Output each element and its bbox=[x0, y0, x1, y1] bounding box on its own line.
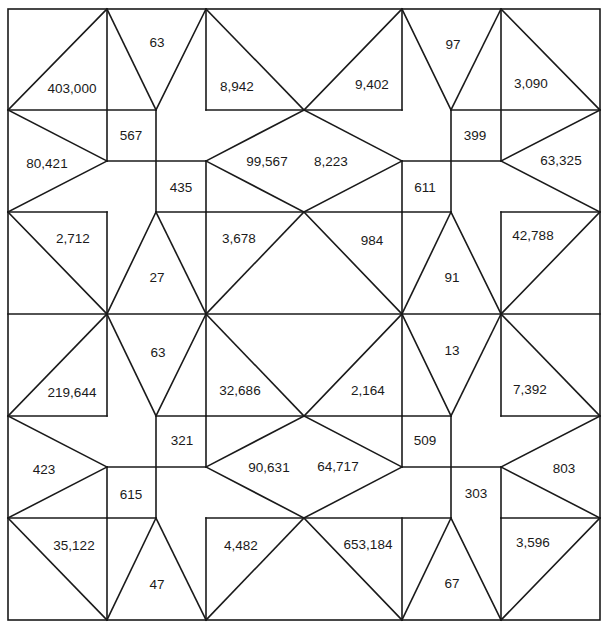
diagram-line bbox=[107, 314, 156, 416]
diagram-line bbox=[206, 467, 304, 518]
region-number-label: 219,644 bbox=[48, 385, 97, 400]
diagram-line bbox=[451, 212, 501, 314]
region-number-label: 509 bbox=[414, 433, 437, 448]
region-number-label: 97 bbox=[445, 37, 460, 52]
diagram-line bbox=[304, 314, 402, 416]
region-number-label: 32,686 bbox=[219, 383, 260, 398]
region-number-label: 3,596 bbox=[516, 535, 550, 550]
diagram-line bbox=[156, 212, 206, 314]
diagram-line bbox=[304, 518, 402, 620]
diagram-line bbox=[156, 518, 206, 620]
region-number-label: 3,678 bbox=[222, 231, 256, 246]
diagram-line bbox=[206, 9, 304, 110]
diagram-line bbox=[156, 9, 206, 110]
region-number-label: 3,090 bbox=[514, 76, 548, 91]
diagram-line bbox=[304, 9, 402, 110]
region-number-label: 9,402 bbox=[355, 77, 389, 92]
region-number-label: 47 bbox=[149, 577, 164, 592]
diagram-line bbox=[501, 518, 600, 620]
diagram-line bbox=[107, 212, 156, 314]
diagram-line bbox=[206, 212, 304, 314]
diagram-line bbox=[8, 110, 107, 161]
diagram-line bbox=[107, 9, 156, 110]
region-number-label: 2,164 bbox=[351, 383, 385, 398]
region-number-label: 99,567 bbox=[246, 154, 287, 169]
region-number-label: 399 bbox=[464, 128, 487, 143]
region-number-label: 63 bbox=[150, 345, 165, 360]
diagram-line bbox=[107, 518, 156, 620]
region-number-label: 803 bbox=[553, 461, 576, 476]
region-number-label: 4,482 bbox=[224, 538, 258, 553]
diagram-line bbox=[304, 467, 402, 518]
diagram-line bbox=[206, 518, 304, 620]
region-number-label: 403,000 bbox=[48, 81, 97, 96]
diagram-line bbox=[8, 518, 107, 620]
diagram-line bbox=[501, 416, 600, 467]
diagram-line bbox=[304, 161, 402, 212]
diagram-line bbox=[304, 212, 402, 314]
diagram-line bbox=[206, 161, 304, 212]
region-number-label: 90,631 bbox=[248, 460, 289, 475]
region-number-label: 567 bbox=[120, 128, 143, 143]
region-number-label: 63 bbox=[149, 35, 164, 50]
region-number-label: 35,122 bbox=[53, 538, 94, 553]
region-number-label: 435 bbox=[170, 180, 193, 195]
diagram-line bbox=[402, 314, 451, 416]
region-number-label: 303 bbox=[465, 486, 488, 501]
diagram-line bbox=[402, 518, 451, 620]
region-number-label: 7,392 bbox=[513, 382, 547, 397]
diagram-line bbox=[501, 9, 600, 110]
region-number-label: 27 bbox=[149, 270, 164, 285]
diagram-line bbox=[501, 161, 600, 212]
diagram-line bbox=[8, 416, 107, 467]
diagram-line bbox=[451, 9, 501, 110]
region-number-label: 67 bbox=[444, 576, 459, 591]
line-layer bbox=[8, 9, 600, 620]
region-number-label: 91 bbox=[444, 270, 459, 285]
region-number-label: 2,712 bbox=[56, 231, 90, 246]
region-number-label: 984 bbox=[361, 233, 384, 248]
region-number-label: 42,788 bbox=[512, 228, 553, 243]
region-number-label: 321 bbox=[171, 433, 194, 448]
diagram-line bbox=[206, 314, 304, 416]
diagram-line bbox=[402, 9, 451, 110]
diagram-line bbox=[8, 314, 107, 416]
diagram-line bbox=[501, 467, 600, 518]
region-number-label: 423 bbox=[33, 462, 56, 477]
diagram-line bbox=[8, 467, 107, 518]
diagram-line bbox=[451, 518, 501, 620]
quilt-puzzle-diagram: 403,000638,9429,402973,09080,42156743599… bbox=[0, 0, 609, 624]
diagram-line bbox=[8, 212, 107, 314]
region-number-label: 653,184 bbox=[344, 537, 393, 552]
region-number-label: 8,942 bbox=[220, 79, 254, 94]
region-number-label: 8,223 bbox=[314, 154, 348, 169]
region-number-label: 615 bbox=[120, 487, 143, 502]
diagram-line bbox=[451, 314, 501, 416]
region-number-label: 13 bbox=[444, 343, 459, 358]
diagram-line bbox=[501, 314, 600, 416]
region-number-label: 64,717 bbox=[317, 459, 358, 474]
label-layer: 403,000638,9429,402973,09080,42156743599… bbox=[26, 35, 581, 592]
region-number-label: 611 bbox=[414, 180, 436, 195]
region-number-label: 80,421 bbox=[26, 156, 67, 171]
diagram-line bbox=[156, 314, 206, 416]
diagram-line bbox=[402, 212, 451, 314]
region-number-label: 63,325 bbox=[540, 153, 581, 168]
